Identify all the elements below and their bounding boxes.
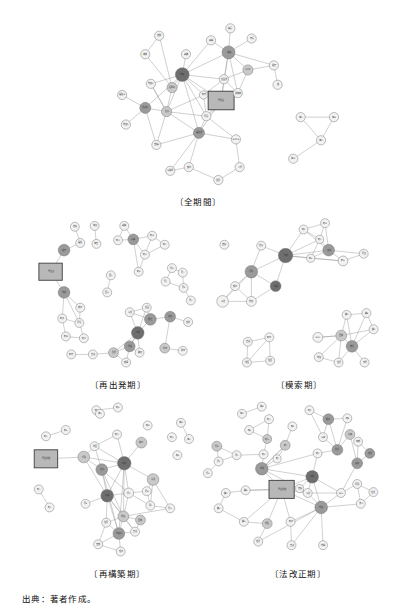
network-node[interactable]: 町D xyxy=(113,403,122,412)
network-node[interactable]: 推進 xyxy=(346,340,358,352)
network-node[interactable]: 教委 xyxy=(181,50,190,59)
network-node[interactable]: 事業 xyxy=(217,296,229,308)
network-node[interactable]: 市役 xyxy=(256,462,269,475)
network-node[interactable]: 検査 xyxy=(178,346,187,355)
network-node[interactable]: 地区 xyxy=(262,519,272,529)
network-node[interactable]: NPO xyxy=(313,332,323,342)
network-node[interactable]: 県庁 xyxy=(58,244,70,256)
network-node[interactable]: 協議 xyxy=(128,234,139,245)
network-node[interactable]: 商議 xyxy=(206,36,215,45)
network-node[interactable]: 中核 xyxy=(118,457,132,471)
network-node[interactable]: 町J xyxy=(273,455,281,463)
network-node[interactable]: 町会 xyxy=(286,517,295,526)
network-node[interactable]: NPO-E xyxy=(231,135,240,144)
network-node[interactable]: 県議 xyxy=(222,46,235,59)
network-node[interactable]: 独C xyxy=(316,136,325,145)
network-node[interactable]: 町E xyxy=(61,426,70,435)
network-node[interactable]: 独自 xyxy=(92,239,101,248)
network-node[interactable]: 連絡 xyxy=(352,458,363,469)
network-node[interactable]: 委D xyxy=(239,517,248,526)
network-node[interactable]: 事業 xyxy=(147,474,159,486)
network-node[interactable]: 福祉B xyxy=(118,90,127,99)
network-node-square[interactable]: 厚生労働 xyxy=(269,480,294,498)
network-node[interactable]: 町B xyxy=(343,414,352,423)
network-node[interactable]: 事務 xyxy=(319,433,328,442)
network-node[interactable]: 民I xyxy=(178,268,187,277)
network-node[interactable]: 本所 xyxy=(141,50,150,59)
network-node[interactable]: 民J xyxy=(161,277,170,286)
network-node[interactable]: 町E xyxy=(134,267,143,276)
network-node[interactable]: 地域A xyxy=(146,79,155,88)
network-node[interactable]: 民H xyxy=(167,264,176,273)
network-node[interactable]: 社協 xyxy=(332,444,343,455)
network-node[interactable]: 民児 xyxy=(202,112,211,121)
network-node[interactable]: 支援 xyxy=(296,484,304,492)
network-node[interactable]: 町H xyxy=(288,422,297,431)
network-node[interactable]: 民児 xyxy=(75,318,84,327)
network-node[interactable]: 町F xyxy=(41,432,50,441)
network-node[interactable]: 町子 xyxy=(58,314,67,323)
network-node[interactable]: 町C xyxy=(160,240,169,249)
network-node[interactable]: 独D xyxy=(289,154,298,163)
network-node[interactable]: 公民 xyxy=(235,162,244,171)
network-node[interactable]: 町I xyxy=(280,440,290,450)
network-graph-saikochiku[interactable]: 厚生労働行政中核社協協議部会事業地区町A町B町C町D町E町F町G町H町I町J民A… xyxy=(20,403,215,565)
network-node[interactable]: 独B xyxy=(176,418,185,427)
network-node[interactable]: 自治 xyxy=(243,337,252,346)
network-node[interactable]: 地域 xyxy=(315,501,328,514)
network-node[interactable]: 議長 xyxy=(226,24,235,33)
network-node[interactable]: 地区 xyxy=(242,358,251,367)
network-node[interactable]: 独B xyxy=(257,402,266,411)
network-node[interactable]: 協議 xyxy=(101,489,114,502)
network-node[interactable]: 医師会 xyxy=(167,82,177,92)
network-node[interactable]: 民D xyxy=(203,469,212,478)
network-node[interactable]: 町B xyxy=(143,421,152,430)
network-node[interactable]: 支局 xyxy=(365,448,375,458)
network-node[interactable]: 福祉 xyxy=(76,238,85,247)
network-node[interactable]: 自治 xyxy=(88,350,97,359)
network-node[interactable]: 支所 xyxy=(155,31,164,40)
network-node[interactable]: 委A xyxy=(342,310,351,319)
network-node[interactable]: 地区 xyxy=(90,442,99,451)
network-node[interactable]: 町A xyxy=(299,225,308,234)
network-node[interactable]: 支援 xyxy=(70,222,79,231)
network-node[interactable]: 保健所 xyxy=(233,88,242,97)
network-node[interactable]: 町G xyxy=(259,450,268,459)
network-node[interactable]: 地域協 xyxy=(113,528,125,540)
network-node[interactable]: 施設 xyxy=(270,281,281,292)
network-node[interactable]: 独A xyxy=(95,409,104,418)
network-node[interactable]: 県庁 xyxy=(269,61,278,70)
network-node[interactable]: 住民 xyxy=(254,537,263,546)
network-node[interactable]: 地域 xyxy=(124,341,135,352)
network-node[interactable]: 部会 xyxy=(136,437,147,448)
network-node[interactable]: 法人 xyxy=(356,499,365,508)
network-node[interactable]: 町内 xyxy=(199,91,207,99)
network-node[interactable]: 町A xyxy=(114,236,123,245)
network-node[interactable]: 独B xyxy=(329,113,338,122)
network-node[interactable]: 事業 xyxy=(125,308,134,317)
network-node[interactable]: 団F xyxy=(106,271,115,280)
network-node[interactable]: 町D xyxy=(307,254,315,262)
network-node[interactable]: 協議 xyxy=(345,430,355,440)
network-node[interactable]: 町E xyxy=(245,426,254,435)
network-node[interactable]: 町F xyxy=(265,415,274,424)
network-node[interactable]: 地域 xyxy=(246,296,256,306)
network-graph-mosaku[interactable]: 中核行政施設連絡社協部会事業地域町A町B町C町D町E民生支援委A委B委C団体推進… xyxy=(204,216,394,376)
network-node[interactable]: 民E xyxy=(81,499,90,508)
network-node[interactable]: 企画 xyxy=(142,303,151,312)
network-node[interactable]: 町I xyxy=(34,485,43,494)
network-node[interactable]: 部会 xyxy=(184,162,193,171)
network-node[interactable]: 市議 xyxy=(175,68,189,82)
network-node[interactable]: 民B xyxy=(142,487,151,496)
network-node[interactable]: 中核 xyxy=(306,471,319,484)
network-node[interactable]: 住民 xyxy=(102,518,111,527)
network-node-square[interactable]: 厚生労働 xyxy=(34,450,57,468)
network-node[interactable]: 町A xyxy=(113,430,122,439)
network-node[interactable]: 部会 xyxy=(76,303,85,312)
network-node[interactable]: 行政 xyxy=(245,265,258,278)
network-node[interactable]: 団体 xyxy=(136,515,146,525)
network-node[interactable]: 町会 xyxy=(265,333,274,342)
network-node[interactable]: 町C xyxy=(313,449,322,458)
network-node[interactable]: 独A xyxy=(296,113,305,122)
network-node[interactable]: 民C xyxy=(214,457,223,466)
